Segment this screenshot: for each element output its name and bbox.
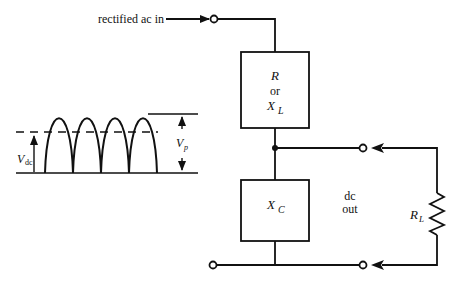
vp-label-sub: p — [183, 143, 188, 152]
filter-circuit-diagram: rectified ac in R or X L X C dc out R L … — [0, 0, 460, 285]
series-label-r: R — [270, 68, 279, 83]
input-wire — [218, 19, 276, 52]
output-bottom-terminal — [360, 262, 367, 269]
load-label-rl-sub: L — [418, 214, 424, 224]
output-label-dc: dc — [344, 189, 355, 203]
output-label-out: out — [342, 202, 358, 216]
input-bottom-terminal — [210, 262, 217, 269]
load-resistor-zigzag — [430, 193, 444, 235]
series-label-xl: X — [266, 98, 276, 113]
rectified-waveform — [16, 114, 198, 173]
output-top-terminal — [360, 145, 367, 152]
shunt-label-xc: X — [266, 197, 276, 212]
series-label-xl-sub: L — [277, 105, 284, 116]
shunt-label-xc-sub: C — [278, 204, 285, 215]
load-label-rl: R — [409, 207, 418, 222]
load-bottom-lead — [382, 235, 437, 265]
vdc-label-sub: dc — [25, 158, 33, 167]
shunt-element-box — [241, 180, 309, 241]
series-label-or: or — [270, 84, 280, 98]
input-label: rectified ac in — [98, 12, 164, 26]
input-top-terminal — [211, 16, 218, 23]
load-top-lead — [382, 148, 437, 193]
